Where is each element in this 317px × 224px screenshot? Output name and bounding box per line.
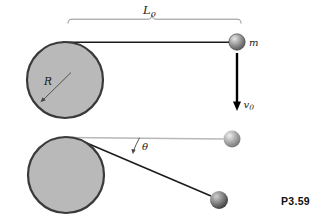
physics-diagram: L0 R m v0 bbox=[0, 0, 317, 224]
initial-ball-ghost bbox=[224, 131, 241, 148]
cylinder-bottom bbox=[28, 137, 104, 213]
angle-label: θ bbox=[142, 141, 148, 152]
current-ball bbox=[210, 191, 228, 209]
figure-caption: P3.59 bbox=[281, 195, 310, 207]
figure-canvas: L0 R m v0 bbox=[0, 0, 317, 224]
initial-string-ghost bbox=[66, 137, 224, 139]
bottom-diagram: θ bbox=[28, 131, 241, 214]
mass-label: m bbox=[249, 37, 258, 48]
top-diagram: L0 R m v0 bbox=[27, 3, 258, 118]
cylinder-top bbox=[27, 42, 103, 118]
length-label: L0 bbox=[142, 3, 156, 19]
velocity-label: v0 bbox=[244, 99, 255, 112]
velocity-arrowhead-icon bbox=[233, 102, 241, 112]
angle-arc-arrow-line bbox=[134, 138, 140, 151]
mass-ball bbox=[229, 34, 245, 50]
angle-arrowhead-icon bbox=[131, 149, 135, 154]
radius-label: R bbox=[43, 75, 52, 87]
